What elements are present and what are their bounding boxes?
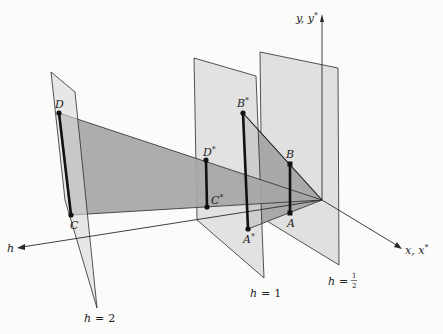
point-a-star <box>245 226 250 231</box>
x-axis-arrowhead <box>394 242 402 249</box>
label-h-axis: h <box>7 242 14 255</box>
label-b: B <box>285 148 294 161</box>
point-b <box>288 162 293 167</box>
label-d: D <box>54 98 64 111</box>
segment-d-star-c-star <box>206 160 207 207</box>
point-b-star <box>240 110 245 115</box>
point-a <box>288 211 293 216</box>
point-d <box>56 110 61 115</box>
label-y-axis: y, y* <box>295 11 318 25</box>
label-plane-h1: h = 1 <box>250 283 281 300</box>
label-plane-h2: h = 2 <box>84 308 115 325</box>
label-c: C <box>70 219 79 232</box>
y-axis-arrowhead <box>320 14 324 22</box>
label-x-axis: x, x* <box>405 243 428 257</box>
h-axis-arrowhead <box>17 244 25 250</box>
svg-text:2: 2 <box>352 282 356 290</box>
svg-text:h =: h = <box>328 271 348 288</box>
label-plane-h-half: h = 1 2 <box>328 271 357 290</box>
label-a: A <box>286 217 295 230</box>
point-c-star <box>204 204 209 209</box>
point-c <box>68 212 73 217</box>
svg-text:1: 1 <box>352 272 356 280</box>
projective-planes-diagram: D C D* C* B* A* B A y, y* x, x* h h = 2 … <box>0 0 443 334</box>
